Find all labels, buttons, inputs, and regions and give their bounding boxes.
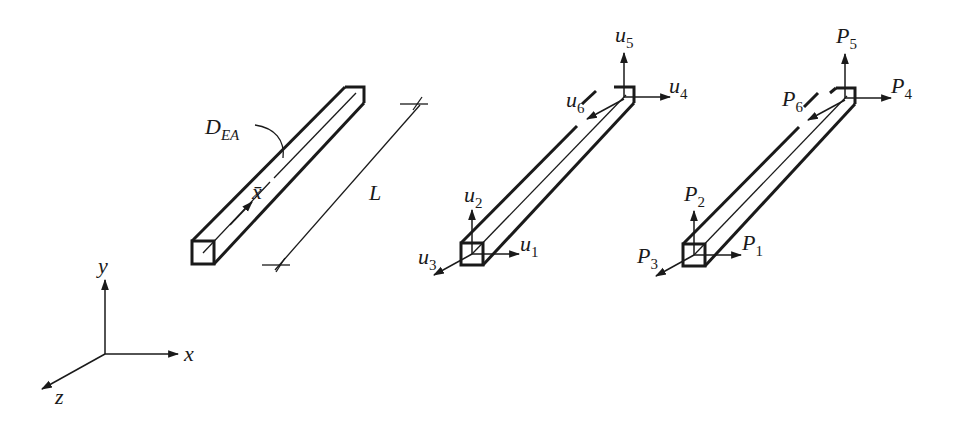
p6-label: P6 bbox=[781, 86, 803, 115]
p5-label: P5 bbox=[835, 23, 857, 52]
diagram-canvas: DEA x̄ L u2 u1 u3 u5 u4 u6 bbox=[0, 0, 957, 421]
local-x-label: x̄ bbox=[251, 179, 262, 204]
bar-element-displacements bbox=[434, 53, 670, 275]
bar-element-geometry bbox=[192, 87, 428, 272]
p1-label: P1 bbox=[741, 230, 763, 259]
u3-label: u3 bbox=[418, 244, 437, 273]
y-axis-label: y bbox=[96, 253, 108, 278]
p4-label: P4 bbox=[890, 73, 912, 102]
z-axis-arrow bbox=[42, 354, 105, 389]
u4-label: u4 bbox=[669, 73, 688, 102]
bar-element-forces bbox=[656, 54, 891, 276]
u2-label: u2 bbox=[464, 182, 483, 211]
length-dimension bbox=[275, 105, 420, 270]
u6-label: u6 bbox=[566, 87, 585, 116]
global-axes bbox=[42, 280, 178, 389]
x-axis-label: x bbox=[183, 341, 194, 366]
local-x-arrow bbox=[230, 202, 252, 225]
z-axis-label: z bbox=[54, 384, 64, 409]
length-label: L bbox=[368, 180, 381, 205]
u1-label: u1 bbox=[520, 231, 539, 260]
p2-label: P2 bbox=[683, 181, 705, 210]
stiffness-label: DEA bbox=[204, 114, 240, 143]
u5-label: u5 bbox=[615, 22, 634, 51]
p3-label: P3 bbox=[636, 243, 658, 272]
